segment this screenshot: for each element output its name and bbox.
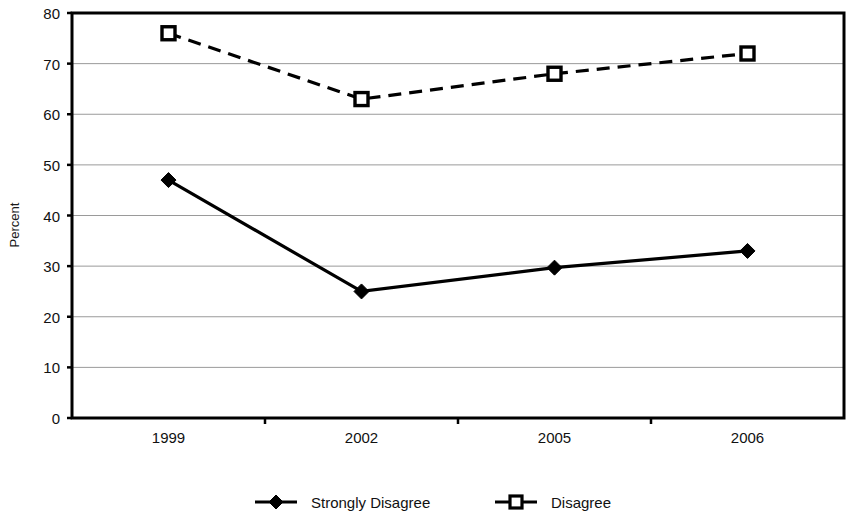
- chart-background: [0, 0, 849, 517]
- y-tick-label: 20: [43, 309, 60, 326]
- y-tick-label: 0: [52, 410, 60, 427]
- x-tick-label: 2006: [731, 429, 764, 446]
- data-point-marker: [355, 93, 368, 106]
- data-point-marker: [162, 27, 175, 40]
- y-axis-tick-labels: 01020304050607080: [43, 5, 60, 427]
- y-tick-label: 30: [43, 258, 60, 275]
- data-point-marker: [548, 67, 561, 80]
- y-tick-label: 50: [43, 157, 60, 174]
- x-tick-label: 2005: [538, 429, 571, 446]
- x-tick-label: 1999: [152, 429, 185, 446]
- y-tick-label: 60: [43, 106, 60, 123]
- y-tick-label: 70: [43, 56, 60, 73]
- legend-label: Strongly Disagree: [311, 494, 430, 511]
- chart-canvas: 01020304050607080 1999200220052006 Perce…: [0, 0, 849, 517]
- legend-label: Disagree: [551, 494, 611, 511]
- legend-item: Disagree: [495, 494, 611, 511]
- y-tick-label: 10: [43, 359, 60, 376]
- x-tick-label: 2002: [345, 429, 378, 446]
- data-point-marker: [741, 47, 754, 60]
- y-tick-label: 80: [43, 5, 60, 22]
- y-tick-label: 40: [43, 208, 60, 225]
- line-chart: 01020304050607080 1999200220052006 Perce…: [0, 0, 849, 517]
- y-axis-title: Percent: [7, 202, 22, 247]
- legend-marker: [510, 496, 522, 508]
